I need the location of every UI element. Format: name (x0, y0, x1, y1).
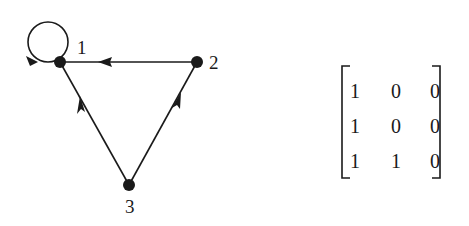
node-2 (191, 56, 203, 68)
node-label-3: 3 (125, 196, 135, 217)
edge-3-to-1 (60, 62, 129, 185)
arrow-icon-2-1 (98, 57, 112, 67)
graph-diagram: 1 2 3 1 0 0 1 0 0 1 1 0 (0, 0, 469, 226)
matrix: 1 0 0 1 0 0 1 1 0 (350, 80, 440, 172)
edge-3-to-2 (129, 62, 197, 185)
matrix-cell: 1 (391, 150, 401, 172)
node-1 (54, 56, 66, 68)
matrix-cell: 1 (350, 150, 360, 172)
matrix-cell: 1 (350, 115, 360, 137)
matrix-cell: 0 (391, 115, 401, 137)
matrix-left-bracket (342, 66, 350, 178)
arrow-icon-3-2 (172, 92, 181, 109)
node-label-1: 1 (77, 37, 87, 58)
node-label-2: 2 (209, 52, 219, 73)
self-loop-edge-1 (28, 22, 68, 62)
matrix-cell: 0 (430, 115, 440, 137)
matrix-cell: 0 (391, 80, 401, 102)
matrix-cell: 0 (430, 150, 440, 172)
matrix-cell: 0 (430, 80, 440, 102)
node-3 (123, 179, 135, 191)
matrix-cell: 1 (350, 80, 360, 102)
